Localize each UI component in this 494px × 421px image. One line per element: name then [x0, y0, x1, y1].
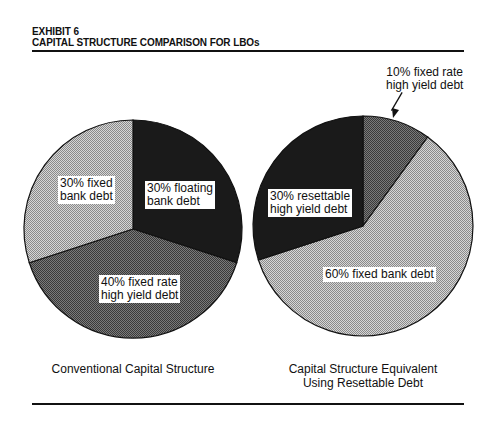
label-30-floating-bank: 30% floatingbank debt: [145, 181, 215, 209]
arrow-icon: [391, 92, 402, 118]
caption-right: Capital Structure EquivalentUsing Resett…: [273, 362, 453, 390]
caption-left: Conventional Capital Structure: [33, 362, 233, 376]
pie-charts: [0, 0, 494, 421]
label-30-resettable-hy: 30% resettablehigh yield debt: [268, 189, 352, 217]
label-60-fixed-bank: 60% fixed bank debt: [323, 267, 436, 282]
left-pie: [24, 120, 242, 338]
label-40-fixed-rate-hy: 40% fixed ratehigh yield debt: [99, 275, 180, 303]
right-pie: [253, 116, 473, 336]
label-30-fixed-bank: 30% fixedbank debt: [58, 176, 115, 204]
bottom-rule: [32, 403, 464, 405]
label-10-fixed-rate-hy: 10% fixed ratehigh yield debt: [386, 66, 463, 92]
